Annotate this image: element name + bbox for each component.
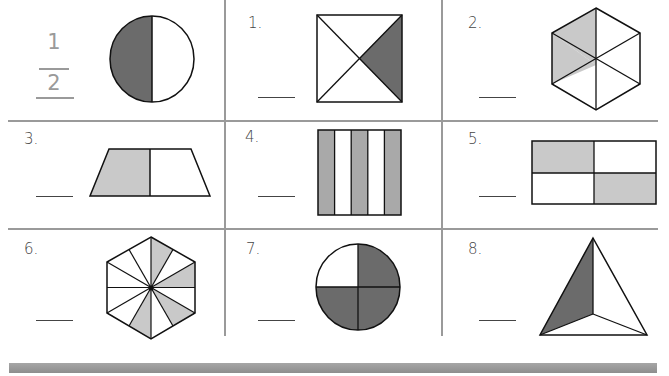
problem-6-twelfths-hexagon-figure [104,235,198,343]
problem-5-answer-blank[interactable] [479,196,516,197]
example-fraction-bar [39,68,69,70]
fractions-worksheet: 1 2 1. 2. 3. [0,0,669,376]
problem-4-answer-blank[interactable] [258,196,295,197]
problem-4-striped-rectangle-figure [317,129,403,217]
example-answer-line [36,97,74,99]
problem-1-square-figure [316,14,404,104]
problem-8-answer-blank[interactable] [479,320,516,321]
grid-divider-vertical-2 [441,0,443,336]
problem-7-quarters-circle-figure [314,242,404,334]
problem-5-grid-rectangle-figure [531,140,657,206]
example-numerator: 1 [36,30,72,54]
problem-1-answer-blank[interactable] [258,97,295,98]
problem-4-label: 4. [245,128,259,146]
example-half-circle-figure [108,14,198,106]
problem-7-answer-blank[interactable] [258,320,295,321]
problem-6-label: 6. [24,240,38,258]
grid-divider-vertical-1 [224,0,226,336]
problem-3-answer-blank[interactable] [36,196,73,197]
problem-8-triangle-figure [538,236,650,338]
grid-divider-horizontal-2 [8,228,658,230]
problem-7-label: 7. [246,240,260,258]
grid-divider-horizontal-1 [8,120,658,122]
problem-2-label: 2. [468,14,482,32]
bottom-divider-bar [9,363,657,373]
problem-2-answer-blank[interactable] [479,97,516,98]
problem-3-trapezoid-figure [88,148,212,198]
problem-1-label: 1. [248,14,262,32]
problem-5-label: 5. [468,130,482,148]
problem-2-hexagon-figure [548,6,644,114]
problem-3-label: 3. [24,130,38,148]
example-denominator: 2 [36,71,72,95]
problem-8-label: 8. [468,240,482,258]
problem-6-answer-blank[interactable] [36,320,73,321]
